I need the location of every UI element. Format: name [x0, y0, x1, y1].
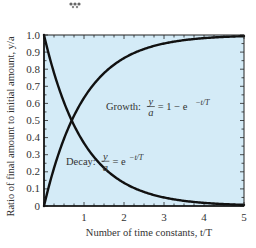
y-tick-label: 0.1: [26, 182, 40, 194]
y-axis-label: Ratio of final amount to initial amount,…: [5, 36, 16, 217]
y-tick-label: 1.0: [26, 29, 40, 41]
x-tick-labels: 12345: [81, 211, 247, 223]
x-axis-label: Number of time constants, t/T: [86, 227, 213, 238]
header-ornament: [69, 2, 80, 8]
y-tick-label: 0.5: [26, 114, 40, 126]
y-tick-label: 0.8: [26, 63, 40, 75]
y-tick-label: 0.3: [26, 148, 40, 160]
x-tick-label: 5: [241, 211, 247, 223]
y-tick-labels: 00.10.20.30.40.50.60.70.80.91.0: [26, 29, 40, 212]
equation-rhs: = 1 − e: [158, 101, 188, 112]
decay-growth-chart: 00.10.20.30.40.50.60.70.80.91.0 12345 Nu…: [0, 0, 256, 248]
equation-rhs: = e: [112, 156, 126, 167]
y-tick-label: 0.2: [26, 165, 40, 177]
equation-exponent: −t/T: [195, 98, 210, 107]
annotation-label: Growth:: [106, 101, 141, 112]
fraction-denominator: a: [148, 107, 153, 118]
x-tick-label: 3: [161, 211, 167, 223]
y-tick-label: 0.4: [26, 131, 40, 143]
fraction-denominator: a: [103, 162, 108, 173]
fraction-numerator: y: [102, 151, 108, 162]
x-tick-label: 2: [121, 211, 127, 223]
annotation-label: Decay:: [66, 156, 96, 167]
y-tick-label: 0.9: [26, 46, 40, 58]
y-tick-label: 0.6: [26, 97, 40, 109]
fraction-numerator: y: [147, 96, 153, 107]
x-tick-label: 4: [201, 211, 207, 223]
plot-area: [44, 35, 244, 206]
x-tick-label: 1: [81, 211, 87, 223]
y-tick-label: 0.7: [26, 80, 40, 92]
y-tick-label: 0: [35, 200, 41, 212]
equation-exponent: −t/T: [129, 153, 144, 162]
